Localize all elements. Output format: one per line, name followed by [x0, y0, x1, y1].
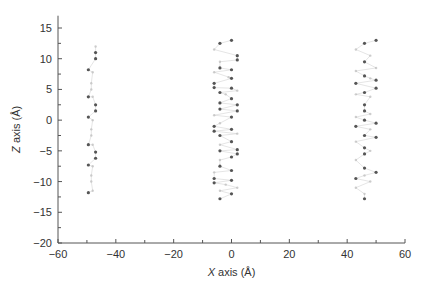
atom-point: [354, 82, 357, 85]
atom-point: [219, 144, 221, 146]
atom-point: [355, 187, 357, 189]
atom-point: [87, 68, 90, 71]
y-tick-label: 10: [40, 53, 52, 65]
atom-point: [92, 96, 94, 98]
atom-point: [369, 150, 371, 152]
atom-point: [236, 58, 239, 61]
atom-point: [363, 197, 366, 200]
atom-point: [90, 174, 92, 176]
data-points: [87, 39, 378, 201]
atom-point: [230, 39, 233, 42]
atom-point: [374, 122, 377, 125]
atom-point: [213, 71, 215, 73]
y-tick-label: 0: [46, 114, 52, 126]
atom-point: [374, 39, 377, 42]
atom-point: [87, 191, 90, 194]
atom-point: [369, 96, 371, 98]
atom-point: [355, 70, 357, 72]
atom-point: [363, 152, 366, 155]
atom-point: [363, 174, 365, 176]
atom-point: [87, 95, 90, 98]
atom-point: [236, 103, 239, 106]
atom-point: [363, 109, 366, 112]
atom-point: [218, 107, 221, 110]
atom-point: [219, 122, 221, 124]
atom-point: [236, 148, 239, 151]
atom-point: [375, 67, 377, 69]
atom-point: [230, 169, 233, 172]
atom-point: [218, 91, 221, 94]
atom-point: [363, 60, 366, 63]
atom-point: [213, 86, 216, 89]
atom-point: [218, 165, 221, 168]
atom-point: [363, 146, 366, 149]
atom-point: [90, 128, 92, 130]
atom-point: [92, 165, 94, 167]
atom-point: [374, 79, 377, 82]
atom-point: [90, 134, 92, 136]
atom-point: [374, 136, 377, 139]
atom-point: [236, 152, 239, 155]
atom-point: [92, 190, 94, 192]
atom-point: [213, 48, 215, 50]
atom-point: [230, 68, 233, 71]
atom-point: [90, 88, 92, 90]
x-axis-title: X axis (Å): [207, 266, 256, 278]
atom-point: [363, 166, 366, 169]
atom-point: [218, 134, 221, 137]
atom-point: [363, 119, 366, 122]
atom-point: [230, 77, 233, 80]
atom-point: [219, 61, 221, 63]
atom-point: [355, 116, 357, 118]
scatter-chart: −20−15−10−5051015 −60−40−200204060 X axi…: [0, 0, 424, 292]
atom-point: [363, 134, 366, 137]
atom-point: [230, 192, 233, 195]
atom-point: [218, 197, 221, 200]
atom-point: [219, 190, 221, 192]
atom-point: [236, 187, 238, 189]
atom-point: [218, 66, 221, 69]
atom-point: [355, 48, 357, 50]
atom-point: [355, 140, 357, 142]
atom-point: [94, 51, 97, 54]
x-tick-label: 60: [399, 248, 411, 260]
atom-point: [230, 87, 233, 90]
y-tick-label: −5: [39, 145, 52, 157]
atom-point: [354, 125, 357, 128]
atom-point: [213, 125, 216, 128]
atom-point: [90, 180, 92, 182]
atom-point: [230, 140, 233, 143]
atom-point: [94, 150, 97, 153]
atom-point: [369, 128, 371, 130]
atom-point: [236, 132, 238, 134]
y-axis-title: Z axis (Å): [10, 106, 22, 154]
atom-point: [355, 93, 357, 95]
atom-point: [92, 71, 94, 73]
atom-point: [363, 91, 366, 94]
atom-point: [369, 113, 371, 115]
atom-point: [236, 109, 239, 112]
atom-point: [230, 155, 233, 158]
atom-point: [94, 45, 96, 47]
atom-point: [230, 97, 233, 100]
x-tick-label: −40: [106, 248, 125, 260]
atom-point: [230, 115, 233, 118]
y-tick-label: −15: [33, 206, 52, 218]
x-tick-label: −60: [49, 248, 68, 260]
atom-point: [87, 163, 90, 166]
atom-point: [230, 128, 233, 131]
atom-point: [227, 76, 229, 78]
atom-point: [92, 144, 94, 146]
atom-point: [236, 89, 238, 91]
atom-point: [369, 54, 371, 56]
atom-point: [213, 181, 216, 184]
atom-point: [94, 109, 97, 112]
atom-point: [94, 103, 97, 106]
atom-point: [213, 114, 215, 116]
atom-point: [87, 115, 90, 118]
atom-point: [213, 82, 216, 85]
x-tick-label: −20: [164, 248, 183, 260]
x-axis-ticks: −60−40−200204060: [49, 239, 411, 260]
atom-point: [363, 193, 365, 195]
y-tick-label: 5: [46, 83, 52, 95]
